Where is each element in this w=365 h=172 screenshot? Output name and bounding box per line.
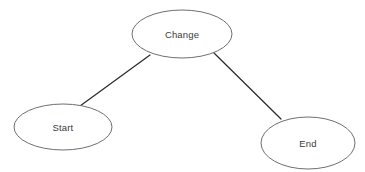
- node-change-label: Change: [165, 29, 199, 40]
- edge-change-to-end: [214, 53, 281, 119]
- diagram-canvas: Change Start End: [0, 0, 365, 172]
- graph-svg: Change Start End: [0, 0, 365, 172]
- node-start-label: Start: [53, 122, 74, 133]
- edge-change-to-start: [80, 55, 150, 106]
- node-end-label: End: [299, 138, 316, 149]
